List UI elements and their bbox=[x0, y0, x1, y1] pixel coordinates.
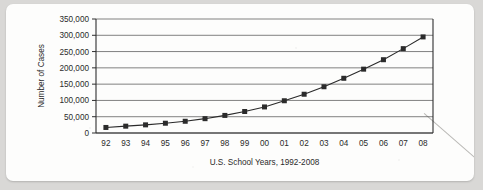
chart-card: 050,000100,000150,000200,000250,000300,0… bbox=[6, 4, 474, 181]
x-tick-label: 95 bbox=[161, 139, 171, 148]
x-tick-label: 01 bbox=[280, 139, 290, 148]
data-point-marker bbox=[381, 57, 386, 62]
y-tick-marks-group bbox=[92, 19, 96, 133]
gridlines-group bbox=[96, 19, 433, 133]
y-tick-labels-group: 050,000100,000150,000200,000250,000300,0… bbox=[59, 15, 89, 138]
x-tick-label: 99 bbox=[240, 139, 250, 148]
data-point-marker bbox=[103, 125, 108, 130]
data-point-marker bbox=[242, 109, 247, 114]
y-tick-label: 200,000 bbox=[59, 64, 89, 73]
y-tick-label: 300,000 bbox=[59, 31, 89, 40]
x-tick-label: 06 bbox=[379, 139, 389, 148]
data-point-marker bbox=[282, 98, 287, 103]
y-tick-label: 250,000 bbox=[59, 48, 89, 57]
y-tick-label: 150,000 bbox=[59, 80, 89, 89]
x-tick-label: 96 bbox=[181, 139, 191, 148]
x-tick-labels-group: 9293949596979899000102030405060708 bbox=[101, 139, 428, 148]
y-tick-label: 0 bbox=[84, 129, 89, 138]
y-tick-label: 50,000 bbox=[64, 113, 89, 122]
x-tick-label: 07 bbox=[399, 139, 409, 148]
x-tick-label: 93 bbox=[121, 139, 131, 148]
x-tick-label: 98 bbox=[220, 139, 230, 148]
data-point-markers-group bbox=[103, 34, 425, 130]
y-tick-label: 100,000 bbox=[59, 96, 89, 105]
x-tick-label: 04 bbox=[339, 139, 349, 148]
data-point-marker bbox=[222, 113, 227, 118]
line-chart: 050,000100,000150,000200,000250,000300,0… bbox=[6, 4, 474, 181]
data-series-line bbox=[106, 37, 423, 128]
data-point-marker bbox=[203, 116, 208, 121]
data-point-marker bbox=[302, 92, 307, 97]
x-tick-label: 92 bbox=[101, 139, 111, 148]
y-tick-label: 350,000 bbox=[59, 15, 89, 24]
data-point-marker bbox=[421, 34, 426, 39]
data-point-marker bbox=[341, 76, 346, 81]
data-point-marker bbox=[262, 104, 267, 109]
data-point-marker bbox=[361, 67, 366, 72]
data-point-marker bbox=[143, 122, 148, 127]
x-tick-label: 97 bbox=[200, 139, 210, 148]
data-point-marker bbox=[401, 46, 406, 51]
x-tick-label: 03 bbox=[319, 139, 329, 148]
x-tick-label: 02 bbox=[300, 139, 310, 148]
data-point-marker bbox=[163, 121, 168, 126]
data-point-marker bbox=[123, 124, 128, 129]
x-tick-label: 00 bbox=[260, 139, 270, 148]
y-axis-title: Number of Cases bbox=[37, 44, 46, 108]
x-tick-label: 08 bbox=[419, 139, 429, 148]
x-axis-title: U.S. School Years, 1992-2008 bbox=[210, 158, 320, 167]
data-point-marker bbox=[183, 119, 188, 124]
chart-canvas: 050,000100,000150,000200,000250,000300,0… bbox=[6, 4, 474, 181]
data-point-marker bbox=[321, 84, 326, 89]
page-container: 050,000100,000150,000200,000250,000300,0… bbox=[0, 0, 483, 190]
x-tick-label: 05 bbox=[359, 139, 369, 148]
x-tick-label: 94 bbox=[141, 139, 151, 148]
